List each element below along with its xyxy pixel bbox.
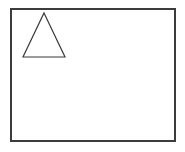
- figure-canvas: [0, 0, 185, 152]
- figure-svg: [0, 0, 185, 152]
- frame-rectangle: [11, 9, 175, 141]
- triangle-shape: [23, 13, 65, 57]
